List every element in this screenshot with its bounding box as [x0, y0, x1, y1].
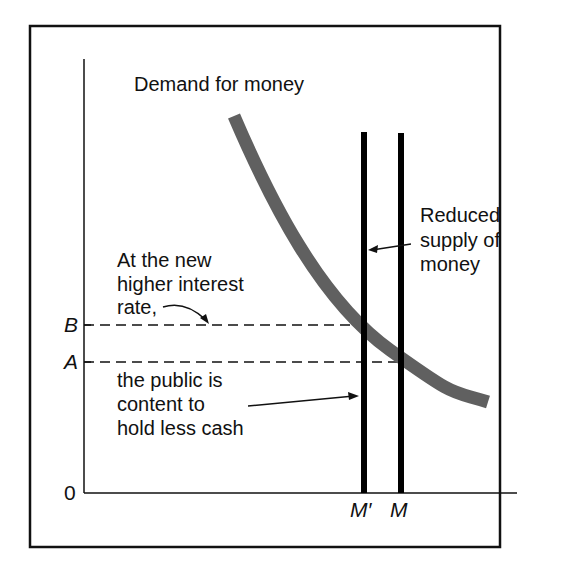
reduced-supply-label-2: supply of: [420, 229, 500, 251]
x-tick-mprime: M′: [350, 498, 372, 521]
public-label-2: content to: [117, 393, 205, 415]
rate-curved-arrow: [163, 305, 206, 320]
public-label-1: the public is: [117, 369, 223, 391]
chart-frame: [30, 26, 500, 547]
y-tick-b: B: [64, 313, 78, 336]
reduced-supply-label-3: money: [420, 253, 480, 275]
reduced-supply-label-1: Reduced: [420, 204, 500, 226]
y-tick-a: A: [62, 350, 78, 373]
new-rate-label-1: At the new: [117, 249, 212, 271]
new-rate-label-2: higher interest: [117, 273, 244, 295]
reduced-supply-arrow: [372, 244, 411, 250]
x-tick-m: M: [390, 498, 408, 521]
arrowhead-icon: [368, 245, 378, 253]
origin-label: 0: [64, 481, 76, 504]
demand-label: Demand for money: [134, 73, 304, 95]
money-market-chart: Demand for money Reduced supply of money…: [0, 0, 571, 579]
public-label-3: hold less cash: [117, 417, 244, 439]
public-arrow: [248, 396, 354, 406]
arrowhead-icon: [348, 392, 359, 400]
new-rate-label-3: rate,: [117, 296, 157, 318]
